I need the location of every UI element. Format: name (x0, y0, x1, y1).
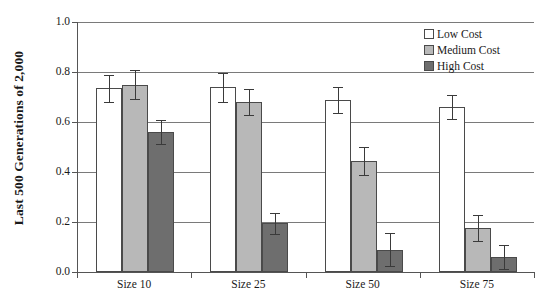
x-axis-label: Size 10 (77, 278, 191, 290)
legend-label: Low Cost (437, 28, 482, 40)
y-axis-tick-labels: 1.00.80.60.40.20.0 (36, 0, 70, 306)
bar (439, 107, 465, 272)
error-bar-cap (447, 119, 457, 120)
error-bar-cap (130, 99, 140, 100)
chart-legend: Low CostMedium CostHigh Cost (424, 22, 530, 74)
error-bar-cap (499, 245, 509, 246)
y-tick-label: 0.6 (38, 116, 70, 127)
y-tick-label: 0.8 (38, 66, 70, 77)
y-tick-label: 0.2 (38, 216, 70, 227)
error-bar-cap (270, 213, 280, 214)
y-tick-label: 0.4 (38, 166, 70, 177)
error-bar-cap (218, 102, 228, 103)
bar (351, 161, 377, 272)
legend-label: Medium Cost (437, 44, 500, 56)
bar (122, 85, 148, 273)
error-bar-cap (447, 95, 457, 96)
error-bar-cap (473, 215, 483, 216)
error-bar-cap (218, 73, 228, 74)
error-bar-cap (333, 113, 343, 114)
error-bar-cap (385, 233, 395, 234)
bar (325, 100, 351, 273)
legend-label: High Cost (437, 60, 484, 72)
legend-swatch (424, 45, 434, 55)
y-tick-label: 0.0 (38, 266, 70, 277)
x-axis-label: Size 25 (191, 278, 305, 290)
error-bar-cap (104, 102, 114, 103)
bar (236, 102, 262, 272)
error-bar (249, 89, 250, 115)
error-bar-cap (333, 87, 343, 88)
bar-chart-figure: Last 500 Generations of 2,000 1.00.80.60… (0, 0, 559, 306)
legend-item: High Cost (424, 58, 530, 74)
x-axis-label: Size 75 (420, 278, 534, 290)
error-bar-cap (244, 89, 254, 90)
bar (148, 132, 174, 272)
error-bar (452, 95, 453, 119)
y-tick-label: 1.0 (38, 16, 70, 27)
x-axis-label: Size 50 (306, 278, 420, 290)
error-bar (390, 233, 391, 266)
legend-item: Medium Cost (424, 42, 530, 58)
x-tick-mark (534, 272, 535, 278)
error-bar (478, 215, 479, 241)
bar (96, 88, 122, 272)
error-bar-cap (359, 175, 369, 176)
error-bar (161, 120, 162, 144)
error-bar-cap (359, 147, 369, 148)
error-bar-cap (156, 144, 166, 145)
error-bar (109, 75, 110, 103)
bar (210, 87, 236, 272)
legend-swatch (424, 61, 434, 71)
error-bar (338, 87, 339, 113)
error-bar-cap (156, 120, 166, 121)
error-bar (364, 147, 365, 175)
error-bar-cap (270, 234, 280, 235)
error-bar-cap (473, 241, 483, 242)
error-bar (275, 213, 276, 234)
error-bar-cap (104, 75, 114, 76)
error-bar (135, 70, 136, 99)
error-bar (223, 73, 224, 102)
error-bar-cap (499, 269, 509, 270)
error-bar-cap (130, 70, 140, 71)
error-bar-cap (244, 115, 254, 116)
legend-swatch (424, 29, 434, 39)
legend-item: Low Cost (424, 26, 530, 42)
error-bar-cap (385, 266, 395, 267)
error-bar (504, 245, 505, 269)
y-axis-title: Last 500 Generations of 2,000 (8, 2, 30, 274)
